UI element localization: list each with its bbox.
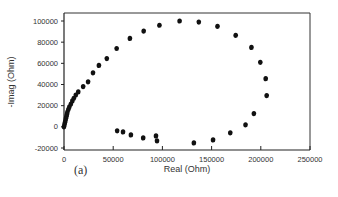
- data-point: [76, 89, 81, 94]
- data-point: [157, 23, 162, 28]
- y-ticks: -20000020000400006000080000100000: [33, 17, 64, 153]
- data-point: [155, 138, 160, 143]
- y-tick-label: 0: [54, 122, 58, 131]
- x-tick-label: 150000: [199, 155, 224, 164]
- data-point: [249, 45, 254, 50]
- y-tick-label: 60000: [37, 59, 58, 68]
- y-axis-label: -Imag (Ohm): [6, 56, 16, 107]
- x-ticks: 050000100000150000200000250000: [62, 146, 323, 164]
- y-tick-label: 40000: [37, 80, 58, 89]
- data-point: [177, 18, 182, 23]
- data-point: [81, 84, 86, 89]
- data-point: [263, 76, 268, 81]
- x-axis-label: Real (Ohm): [164, 164, 211, 174]
- data-point: [105, 56, 110, 61]
- nyquist-plot: 050000100000150000200000250000 -20000020…: [0, 0, 338, 197]
- data-point: [91, 70, 96, 75]
- data-point: [243, 122, 248, 127]
- data-point: [258, 60, 263, 65]
- data-point: [228, 130, 233, 135]
- data-point: [252, 111, 257, 116]
- data-point: [115, 128, 120, 133]
- data-point: [197, 19, 202, 24]
- data-point: [154, 133, 159, 138]
- data-point: [211, 137, 216, 142]
- data-point: [233, 33, 238, 38]
- data-point: [141, 28, 146, 33]
- data-points: [62, 18, 269, 145]
- panel-label: (a): [74, 163, 87, 178]
- x-tick-label: 200000: [248, 155, 273, 164]
- y-tick-label: 100000: [33, 17, 58, 26]
- y-tick-label: 20000: [37, 101, 58, 110]
- data-point: [128, 36, 133, 41]
- plot-frame: [64, 13, 310, 150]
- x-tick-label: 0: [62, 155, 66, 164]
- data-point: [264, 93, 269, 98]
- data-point: [86, 79, 91, 84]
- data-point: [192, 140, 197, 145]
- x-tick-label: 50000: [103, 155, 124, 164]
- data-point: [129, 132, 134, 137]
- x-tick-label: 100000: [150, 155, 175, 164]
- data-point: [97, 63, 102, 68]
- y-tick-label: 80000: [37, 38, 58, 47]
- y-tick-label: -20000: [35, 144, 58, 153]
- x-tick-label: 250000: [297, 155, 322, 164]
- data-point: [141, 135, 146, 140]
- data-point: [215, 24, 220, 29]
- data-point: [114, 46, 119, 51]
- data-point: [121, 129, 126, 134]
